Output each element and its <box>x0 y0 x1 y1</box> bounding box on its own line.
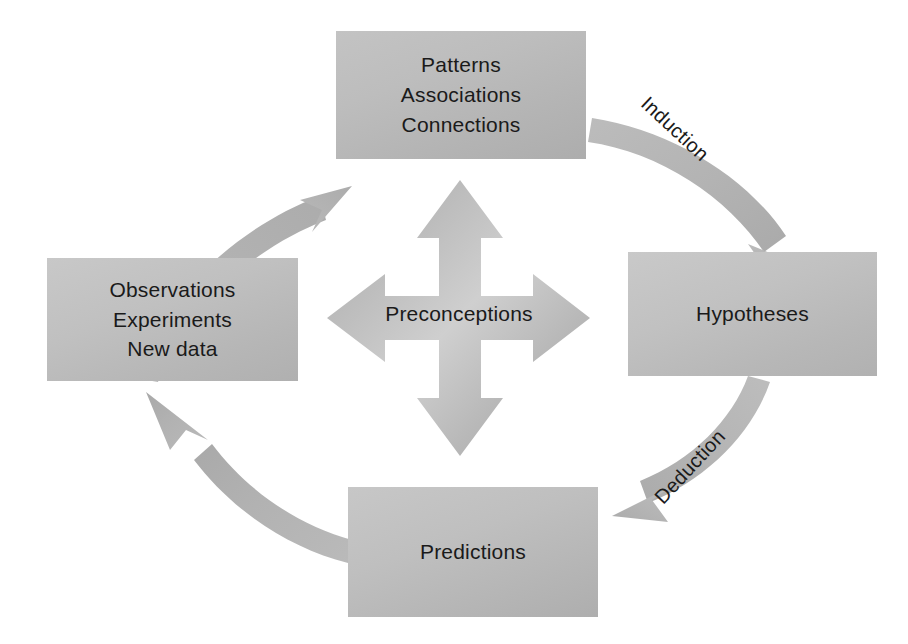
node-box-observations[interactable]: Observations Experiments New data <box>47 258 298 381</box>
node-box-patterns[interactable]: Patterns Associations Connections <box>336 31 586 159</box>
node-box-predictions[interactable]: Predictions <box>348 487 598 617</box>
center-label-preconceptions: Preconceptions <box>327 302 591 326</box>
node-label-line: Observations <box>109 275 235 305</box>
node-label-line: Associations <box>401 80 521 110</box>
node-label-line: Connections <box>402 110 521 140</box>
scientific-method-diagram: Patterns Associations Connections Observ… <box>0 0 908 644</box>
node-label-line: Patterns <box>421 50 501 80</box>
node-label-line: New data <box>127 334 217 364</box>
arrow-predictions-to-observations <box>146 392 352 563</box>
node-label-line: Hypotheses <box>696 299 809 329</box>
node-label-line: Predictions <box>420 537 526 567</box>
node-box-hypotheses[interactable]: Hypotheses <box>628 252 877 376</box>
node-label-line: Experiments <box>113 305 232 335</box>
